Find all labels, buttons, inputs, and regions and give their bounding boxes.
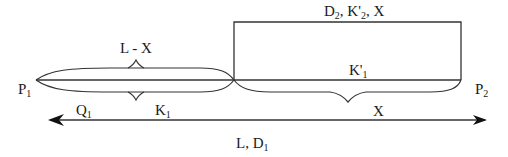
right-brace: [234, 80, 461, 102]
left-lens-lower: [36, 80, 234, 92]
label-l-d1: L, D1: [236, 136, 269, 153]
k1-brace: [128, 92, 144, 100]
diagram-canvas: [0, 0, 508, 157]
label-p2: P2: [475, 82, 488, 99]
label-p1: P1: [18, 82, 31, 99]
upper-rectangle: [234, 22, 461, 80]
label-rect-top: D2, K'2, X: [324, 4, 384, 21]
l-minus-x-brace: [128, 60, 144, 68]
label-k1: K1: [155, 103, 171, 120]
label-q1: Q1: [76, 103, 92, 120]
label-k-prime-1: K'1: [349, 63, 368, 80]
label-l-minus-x: L - X: [120, 41, 152, 56]
label-x-arrow: X: [373, 104, 384, 119]
left-lens-upper: [36, 68, 234, 80]
